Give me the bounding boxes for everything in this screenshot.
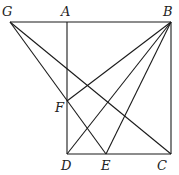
label-G: G xyxy=(2,4,12,19)
segment-BE xyxy=(106,22,171,154)
segment-BD xyxy=(67,22,171,154)
geometry-diagram: G A B F D E C xyxy=(0,0,179,175)
label-B: B xyxy=(162,4,173,19)
segment-BF xyxy=(67,22,171,101)
label-A: A xyxy=(60,4,70,19)
label-D: D xyxy=(60,158,72,173)
label-F: F xyxy=(54,100,65,115)
point-labels: G A B F D E C xyxy=(2,4,173,173)
segment-GE xyxy=(10,22,106,154)
label-C: C xyxy=(157,158,167,173)
segments xyxy=(10,22,171,154)
segment-GC xyxy=(10,22,171,154)
label-E: E xyxy=(100,158,111,173)
